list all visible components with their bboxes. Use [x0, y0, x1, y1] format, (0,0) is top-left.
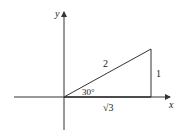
hypotenuse-label: 2 — [103, 58, 108, 69]
angle-label: 30° — [82, 87, 95, 97]
diagram-canvas: y x 2 1 30° √3 — [0, 0, 179, 135]
opposite-label: 1 — [156, 68, 161, 79]
adjacent-label: √3 — [103, 102, 114, 113]
y-axis-label: y — [54, 8, 60, 19]
hypotenuse — [64, 49, 151, 97]
x-axis-label: x — [168, 99, 174, 110]
